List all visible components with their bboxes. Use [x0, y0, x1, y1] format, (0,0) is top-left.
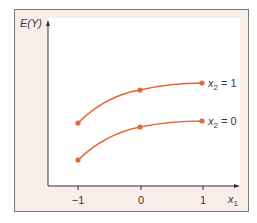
y-axis-label: E(Y)	[20, 17, 42, 29]
data-point	[137, 87, 142, 92]
x-tick-label: 0	[138, 194, 144, 206]
data-point	[75, 157, 80, 162]
data-point	[199, 80, 204, 85]
data-point	[199, 118, 204, 123]
data-point	[75, 120, 80, 125]
x-tick-label: 1	[200, 194, 206, 206]
data-point	[137, 124, 142, 129]
chart: −1 0 1 E(Y) x1 x2 = 1 x2 = 0	[0, 0, 257, 223]
x-tick-label: −1	[72, 194, 85, 206]
